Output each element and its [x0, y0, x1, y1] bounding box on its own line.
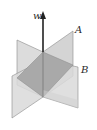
plane-b-label: B [80, 64, 88, 75]
planes-diagram: w A B [0, 0, 97, 130]
plane-a-label: A [74, 24, 82, 35]
vector-w-label: w [33, 10, 42, 21]
